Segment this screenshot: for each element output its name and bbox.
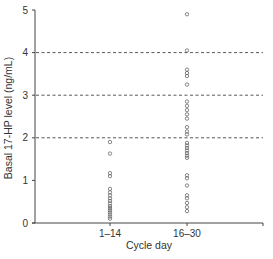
data-point <box>185 201 188 204</box>
y-tick-label: 4 <box>22 47 28 58</box>
data-point <box>185 49 188 52</box>
data-point <box>185 156 188 159</box>
data-point <box>185 209 188 212</box>
data-point <box>108 140 111 143</box>
data-point <box>108 187 111 190</box>
scatter-chart: 012345 1–1416–30 Cycle day Basal 17-HP l… <box>0 0 273 259</box>
data-point <box>108 217 111 220</box>
x-axis-title: Cycle day <box>126 239 173 251</box>
y-ticks: 012345 <box>22 5 35 229</box>
y-tick-label: 2 <box>22 132 28 143</box>
data-point <box>185 184 188 187</box>
x-tick-label: 16–30 <box>173 228 201 239</box>
data-point <box>185 117 188 120</box>
data-point <box>185 108 188 111</box>
reference-lines <box>36 53 263 138</box>
data-point <box>185 13 188 16</box>
data-point <box>185 104 188 107</box>
data-point <box>185 125 188 128</box>
data-point <box>185 113 188 116</box>
axes <box>32 10 263 223</box>
data-point <box>185 206 188 209</box>
y-axis-title: Basal 17-HP level (ng/mL) <box>2 57 14 179</box>
x-ticks: 1–1416–30 <box>99 223 263 239</box>
y-tick-label: 0 <box>22 218 28 229</box>
y-tick-label: 1 <box>22 175 28 186</box>
y-tick-label: 3 <box>22 90 28 101</box>
data-point <box>185 68 188 71</box>
data-point <box>108 152 111 155</box>
data-point <box>185 100 188 103</box>
data-points <box>108 13 188 221</box>
y-tick-label: 5 <box>22 5 28 16</box>
data-point <box>185 83 188 86</box>
x-tick-label: 1–14 <box>99 228 122 239</box>
